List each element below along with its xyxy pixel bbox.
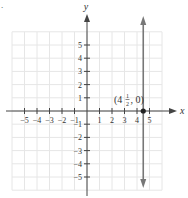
axes — [6, 14, 177, 196]
y-tick-label: 5 — [78, 41, 82, 50]
y-tick-label: −1 — [73, 120, 82, 129]
point-label-frac-num: 1 — [126, 93, 129, 99]
line-arrow-down-icon — [140, 179, 146, 188]
y-tick-label: 3 — [78, 67, 82, 76]
y-tick-label: 1 — [78, 94, 82, 103]
point-label-open: (4 — [114, 94, 122, 106]
intercept-point — [141, 108, 146, 113]
y-tick-label: −4 — [73, 160, 82, 169]
problem-mark: . — [1, 0, 3, 10]
y-axis-arrow-icon — [84, 14, 90, 22]
coordinate-plane: −5−4−3−2−112345−5−4−3−2−112345 xy(412, 0… — [0, 0, 188, 198]
x-tick-label: 1 — [98, 116, 102, 125]
y-tick-label: −2 — [73, 133, 82, 142]
x-tick-label: 3 — [123, 116, 127, 125]
y-tick-label: −3 — [73, 147, 82, 156]
x-axis-arrow-icon — [169, 108, 177, 114]
x-tick-label: −3 — [45, 116, 54, 125]
x-axis-label: x — [179, 105, 185, 116]
y-axis-label: y — [83, 1, 89, 12]
y-tick-label: −5 — [73, 173, 82, 182]
x-tick-label: −2 — [58, 116, 67, 125]
x-tick-label: −4 — [33, 116, 42, 125]
y-tick-label: 2 — [78, 81, 82, 90]
point-label: (412, 0) — [114, 93, 144, 107]
x-tick-label: 5 — [148, 116, 152, 125]
line-arrow-up-icon — [140, 16, 146, 25]
point-label-close: , 0) — [131, 94, 144, 106]
x-tick-label: −5 — [20, 116, 29, 125]
y-tick-label: 4 — [78, 54, 82, 63]
point-label-frac-den: 2 — [126, 101, 129, 107]
x-tick-label: 4 — [135, 116, 139, 125]
x-tick-label: 2 — [110, 116, 114, 125]
graph-figure: . −5−4−3−2−112345−5−4−3−2−112345 xy(412,… — [0, 0, 188, 198]
